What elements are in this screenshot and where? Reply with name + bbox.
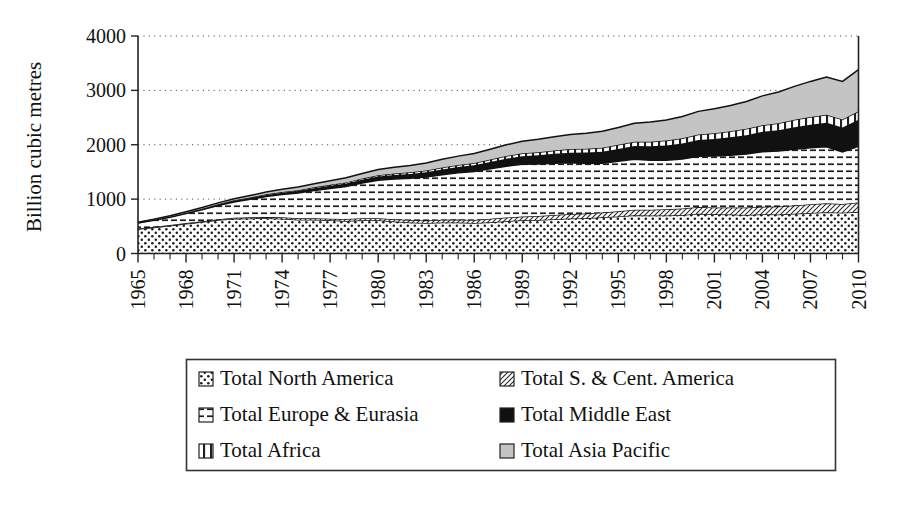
- legend-item[interactable]: Total S. & Cent. America: [500, 366, 735, 390]
- legend-label: Total Asia Pacific: [521, 438, 670, 462]
- y-axis-title: Billion cubic metres: [22, 62, 46, 232]
- y-tick-label: 0: [116, 243, 126, 265]
- y-tick-label: 3000: [86, 79, 126, 101]
- legend-label: Total Middle East: [521, 402, 671, 426]
- legend-item[interactable]: Total North America: [199, 366, 394, 390]
- x-tick-label: 2001: [703, 270, 725, 310]
- x-tick-label: 2010: [848, 270, 870, 310]
- legend-item[interactable]: Total Asia Pacific: [500, 438, 670, 462]
- x-tick-label: 1995: [607, 270, 629, 310]
- legend-item[interactable]: Total Europe & Eurasia: [199, 402, 419, 426]
- x-tick-label: 1992: [559, 270, 581, 310]
- chart-figure: Billion cubic metres 01000200030004000 1…: [0, 0, 897, 507]
- x-tick-label: 1977: [319, 270, 341, 310]
- legend-swatch-icon: [199, 408, 213, 422]
- y-tick-label: 1000: [86, 188, 126, 210]
- legend-swatch-icon: [199, 444, 213, 458]
- legend-label: Total North America: [220, 366, 394, 390]
- legend-swatch-icon: [500, 444, 514, 458]
- x-tick-label: 1983: [415, 270, 437, 310]
- legend-swatch-icon: [500, 372, 514, 386]
- x-tick-label: 2007: [799, 270, 821, 310]
- y-tick-label: 2000: [86, 134, 126, 156]
- x-tick-label: 1974: [271, 270, 293, 310]
- legend-label: Total S. & Cent. America: [521, 366, 735, 390]
- legend-swatch-icon: [199, 372, 213, 386]
- x-tick-label: 1968: [175, 270, 197, 310]
- legend-label: Total Africa: [220, 438, 321, 462]
- x-tick-label: 1998: [655, 270, 677, 310]
- legend-label: Total Europe & Eurasia: [220, 402, 419, 426]
- legend-item[interactable]: Total Middle East: [500, 402, 671, 426]
- x-tick-label: 1986: [463, 270, 485, 310]
- legend-swatch-icon: [500, 408, 514, 422]
- x-tick-label: 1971: [223, 270, 245, 310]
- x-tick-label: 2004: [751, 270, 773, 310]
- stacked-area-chart: Billion cubic metres 01000200030004000 1…: [0, 0, 897, 507]
- x-tick-label: 1989: [511, 270, 533, 310]
- x-tick-label: 1965: [127, 270, 149, 310]
- x-tick-label: 1980: [367, 270, 389, 310]
- y-tick-label: 4000: [86, 25, 126, 47]
